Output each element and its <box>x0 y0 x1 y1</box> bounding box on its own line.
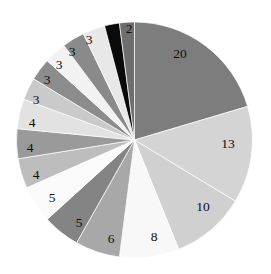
pie-chart-figure: 20131086554443333322 <box>0 0 271 274</box>
pie-slice-label: 4 <box>29 115 36 130</box>
pie-slice-label: 3 <box>56 57 63 72</box>
pie-slice-label: 8 <box>151 229 158 244</box>
pie-slice-label: 5 <box>49 190 56 205</box>
pie-slice-layer <box>17 22 253 258</box>
pie-slice-label: 20 <box>173 46 187 61</box>
pie-slice-label: 4 <box>33 167 40 182</box>
pie-slice-label: 6 <box>108 231 115 246</box>
pie-slice-label: 13 <box>221 136 235 151</box>
pie-slice-label: 5 <box>76 215 83 230</box>
pie-slice-label: 3 <box>86 32 93 47</box>
pie-slice-label: 3 <box>69 44 76 59</box>
pie-slice-label: 4 <box>27 140 34 155</box>
pie-slice-label: 2 <box>109 24 116 39</box>
pie-slice-label: 2 <box>126 21 133 36</box>
pie-slice-label: 10 <box>196 199 210 214</box>
pie-slice-label: 3 <box>33 92 40 107</box>
pie-chart-svg: 20131086554443333322 <box>0 0 271 274</box>
pie-slice-label: 3 <box>44 72 51 87</box>
